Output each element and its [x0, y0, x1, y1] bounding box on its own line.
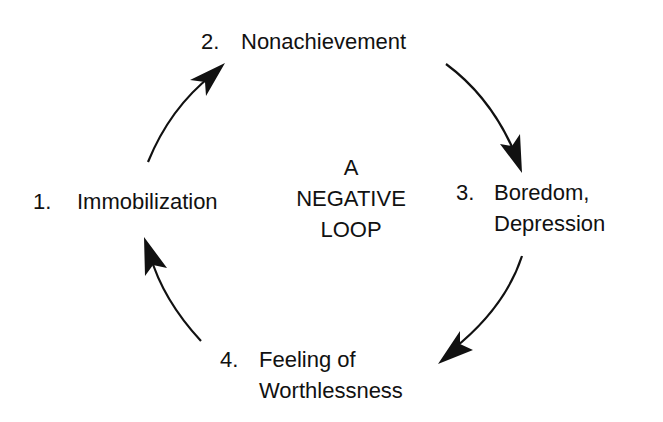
node-number: 1. [33, 186, 51, 217]
node-number: 2. [201, 26, 219, 57]
arrow-2-to-3 [446, 64, 522, 173]
node-label-line-1: Boredom, [494, 177, 589, 208]
node-label: Nonachievement [241, 26, 406, 57]
node-label-line-1: Feeling of [259, 344, 356, 375]
center-title-line-3: LOOP [270, 214, 432, 245]
node-number: 3. [456, 177, 474, 208]
center-title: A NEGATIVE LOOP [270, 152, 432, 245]
node-label-line-2: Worthlessness [259, 375, 403, 406]
node-label: Immobilization [77, 186, 218, 217]
center-title-line-1: A [270, 152, 432, 183]
arrow-3-to-4 [438, 256, 522, 364]
node-label-line-2: Depression [494, 208, 605, 239]
node-number: 4. [220, 344, 238, 375]
arrow-1-to-2 [148, 63, 225, 162]
center-title-line-2: NEGATIVE [270, 183, 432, 214]
arrow-4-to-1 [144, 237, 201, 341]
negative-loop-diagram: 1. Immobilization 2. Nonachievement 3. B… [0, 0, 663, 422]
